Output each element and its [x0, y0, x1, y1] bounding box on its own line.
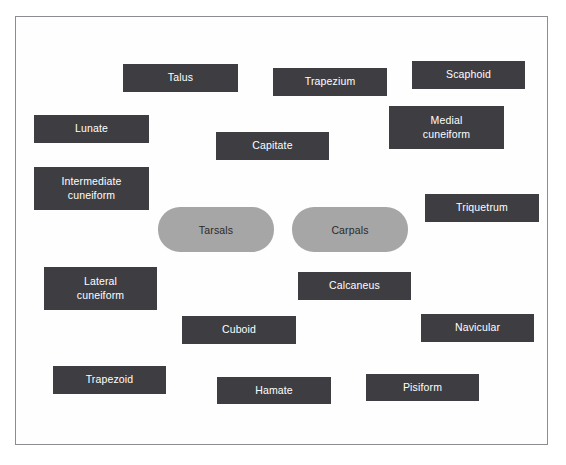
bone-tile-label: Lateralcuneiform — [77, 275, 124, 302]
bone-tile-hamate[interactable]: Hamate — [217, 377, 331, 404]
bone-tile-intermediate-cuneiform[interactable]: Intermediatecuneiform — [34, 167, 149, 210]
bone-tile-medial-cuneiform[interactable]: Medialcuneiform — [389, 106, 504, 149]
bone-tile-label: Scaphoid — [446, 68, 491, 81]
bone-tile-label: Intermediatecuneiform — [61, 175, 121, 202]
category-target-tarsals[interactable]: Tarsals — [158, 207, 274, 252]
bone-tile-label: Lunate — [75, 122, 108, 135]
bone-tile-label: Trapezoid — [86, 373, 134, 386]
bone-tile-trapezium[interactable]: Trapezium — [273, 68, 387, 96]
bone-tile-label: Trapezium — [305, 75, 356, 88]
bone-tile-label: Hamate — [255, 384, 293, 397]
bone-tile-scaphoid[interactable]: Scaphoid — [412, 61, 525, 89]
bone-tile-label: Calcaneus — [329, 279, 380, 292]
bone-tile-triquetrum[interactable]: Triquetrum — [425, 194, 539, 222]
bone-tile-trapezoid[interactable]: Trapezoid — [53, 366, 166, 394]
bone-tile-label: Navicular — [455, 321, 500, 334]
bone-tile-label: Cuboid — [222, 323, 256, 336]
bone-tile-label: Medialcuneiform — [423, 114, 470, 141]
bone-tile-lateral-cuneiform[interactable]: Lateralcuneiform — [44, 267, 157, 310]
bone-tile-cuboid[interactable]: Cuboid — [182, 316, 296, 344]
drag-drop-activity-frame: Tarsals Carpals Talus Trapezium Scaphoid… — [15, 16, 548, 445]
bone-tile-calcaneus[interactable]: Calcaneus — [298, 272, 411, 300]
bone-tile-label: Talus — [168, 71, 193, 84]
bone-tile-navicular[interactable]: Navicular — [421, 314, 534, 342]
bone-tile-label: Triquetrum — [456, 201, 508, 214]
bone-tile-talus[interactable]: Talus — [123, 64, 238, 92]
bone-tile-capitate[interactable]: Capitate — [216, 132, 329, 160]
bone-tile-label: Pisiform — [403, 381, 442, 394]
category-target-carpals[interactable]: Carpals — [292, 207, 408, 252]
bone-tile-lunate[interactable]: Lunate — [34, 115, 149, 143]
category-target-label: Tarsals — [199, 224, 233, 236]
bone-tile-label: Capitate — [252, 139, 292, 152]
category-target-label: Carpals — [331, 224, 368, 236]
bone-tile-pisiform[interactable]: Pisiform — [366, 374, 479, 401]
